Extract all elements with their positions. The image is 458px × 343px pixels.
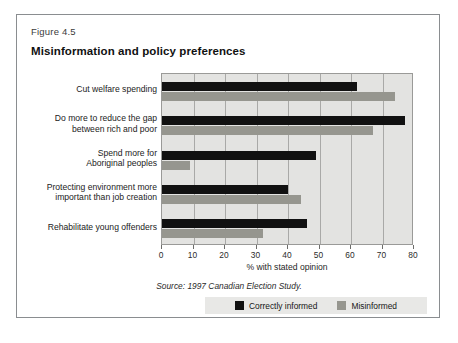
bar-misinformed — [162, 161, 190, 170]
legend-label: Misinformed — [351, 301, 397, 311]
x-tick-label: 0 — [159, 250, 164, 260]
category-label: Cut welfare spending — [0, 84, 157, 95]
legend-item: Misinformed — [337, 301, 397, 311]
bars-layer — [162, 74, 412, 244]
figure-frame: Figure 4.5 Misinformation and policy pre… — [16, 14, 440, 318]
x-tick-label: 70 — [377, 250, 386, 260]
x-tick-mark — [193, 245, 194, 249]
legend-item: Correctly informed — [235, 301, 317, 311]
chart-legend: Correctly informedMisinformed — [205, 297, 427, 314]
bar-group — [162, 185, 412, 204]
x-tick-mark — [413, 245, 414, 249]
x-tick-label: 10 — [188, 250, 197, 260]
category-label: Rehabilitate young offenders — [0, 222, 157, 233]
bar-misinformed — [162, 229, 263, 238]
legend-label: Correctly informed — [249, 301, 317, 311]
x-tick-label: 30 — [251, 250, 260, 260]
bar-misinformed — [162, 195, 301, 204]
bar-correctly-informed — [162, 116, 405, 125]
bar-group — [162, 151, 412, 170]
chart-container: Cut welfare spendingDo more to reduce th… — [17, 15, 441, 319]
source-note: Source: 1997 Canadian Election Study. — [17, 281, 441, 291]
category-label: Do more to reduce the gapbetween rich an… — [0, 113, 157, 134]
bar-correctly-informed — [162, 185, 288, 194]
bar-group — [162, 219, 412, 238]
bar-correctly-informed — [162, 151, 316, 160]
category-label: Spend more forAboriginal peoples — [0, 148, 157, 169]
bar-group — [162, 116, 412, 135]
bar-misinformed — [162, 126, 373, 135]
x-axis-title: % with stated opinion — [161, 262, 413, 272]
x-tick-mark — [224, 245, 225, 249]
x-tick-mark — [287, 245, 288, 249]
x-tick-label: 20 — [219, 250, 228, 260]
legend-swatch-correctly-informed — [235, 301, 244, 310]
bar-correctly-informed — [162, 219, 307, 228]
x-tick-mark — [382, 245, 383, 249]
legend-swatch-misinformed — [337, 301, 346, 310]
x-tick-label: 80 — [408, 250, 417, 260]
x-tick-mark — [256, 245, 257, 249]
x-tick-label: 50 — [314, 250, 323, 260]
category-label: Protecting environment moreimportant tha… — [0, 182, 157, 203]
x-tick-mark — [161, 245, 162, 249]
x-tick-label: 40 — [282, 250, 291, 260]
bar-group — [162, 82, 412, 101]
plot-area — [161, 73, 413, 245]
bar-correctly-informed — [162, 82, 357, 91]
bar-misinformed — [162, 92, 395, 101]
x-tick-mark — [350, 245, 351, 249]
x-tick-mark — [319, 245, 320, 249]
x-tick-label: 60 — [345, 250, 354, 260]
